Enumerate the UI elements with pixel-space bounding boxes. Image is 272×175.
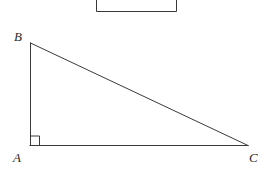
figure-canvas [0,0,272,175]
vertex-label-a: A [13,151,21,164]
figure-background [0,0,272,175]
vertex-label-b: B [14,30,22,43]
vertex-label-c: C [249,151,258,164]
geometry-figure: B A C [0,0,272,175]
